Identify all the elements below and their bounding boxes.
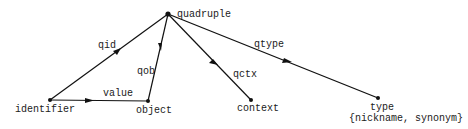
node-label-type: type — [370, 102, 394, 113]
edge-qctx — [168, 14, 251, 100]
edge-label-value: value — [103, 88, 133, 99]
edge-value — [50, 100, 148, 101]
node-identifier-dot — [48, 98, 52, 102]
edge-label-qtype: qtype — [254, 39, 284, 50]
edge-label-qid: qid — [98, 40, 116, 51]
edge-qtype — [168, 14, 378, 98]
arrow-qctx-icon — [209, 59, 218, 65]
node-type-dot — [376, 96, 380, 100]
node-label-object: object — [136, 105, 172, 116]
arrow-qtype-icon — [282, 58, 292, 63]
node-context-dot — [249, 98, 253, 102]
node-quadruple-dot — [165, 11, 170, 16]
node-object-dot — [146, 99, 150, 103]
arrow-value-icon — [85, 98, 94, 103]
node-label-identifier: identifier — [15, 104, 75, 115]
node-label-quadruple: quadruple — [177, 9, 231, 20]
node-label-context: context — [237, 103, 279, 114]
node-sublabel-type: {nickname, synonym} — [349, 113, 463, 124]
edge-label-qob: qob — [137, 66, 155, 77]
edge-label-qctx: qctx — [233, 69, 257, 80]
